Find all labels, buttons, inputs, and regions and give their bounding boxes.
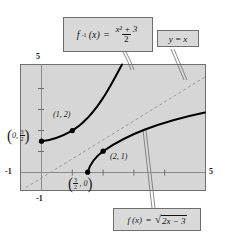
f-fn: f <box>127 215 130 225</box>
identity-label-text: y = x <box>169 34 188 44</box>
y-axis-top-label: 5 <box>36 52 40 61</box>
f-arg: (x) <box>132 215 142 225</box>
figure-canvas: f-1(x) = x² + 3 2 y = x f(x) = √ 2x − 3 … <box>0 0 228 239</box>
f-inverse-arg: (x) <box>89 29 100 40</box>
plot-area-background <box>21 65 206 191</box>
point-label-0-three-halves: ( 0, 3 2 ) <box>7 128 30 143</box>
point-b-x-den: 2 <box>73 183 78 190</box>
paren-close-a: ) <box>25 127 30 144</box>
paren-open-a: ( <box>7 127 12 144</box>
callout-f: f(x) = √ 2x − 3 <box>113 208 201 231</box>
point-label-1-2: (1, 2) <box>53 110 70 119</box>
f-inverse-exponent: -1 <box>82 32 87 38</box>
f-inverse-numerator: x² + 3 <box>113 25 139 34</box>
f-equals: = <box>146 215 151 225</box>
callout-identity: y = x <box>157 30 199 47</box>
point-b-y: , 0 <box>80 180 88 188</box>
point-label-2-1: (2, 1) <box>110 152 127 161</box>
point-label-three-halves-0: ( 3 2 , 0 ) <box>68 176 93 191</box>
callout-f-inverse: f-1(x) = x² + 3 2 <box>63 17 153 52</box>
x-axis-right-label: 5 <box>209 167 213 176</box>
f-inverse-fn: f <box>77 29 80 40</box>
y-axis-bottom-label: -1 <box>36 194 43 203</box>
point-marker-2-1 <box>101 149 106 154</box>
f-inverse-denominator: 2 <box>122 34 131 44</box>
paren-close-b: ) <box>88 175 93 192</box>
x-axis-left-label: -1 <box>5 167 12 176</box>
point-marker-0-three-halves <box>39 139 44 144</box>
f-inverse-equals: = <box>104 29 110 40</box>
point-marker-1-2 <box>70 128 75 133</box>
f-radicand: 2x − 3 <box>161 215 187 226</box>
paren-open-b: ( <box>68 175 73 192</box>
point-a-x: 0, <box>12 132 18 140</box>
